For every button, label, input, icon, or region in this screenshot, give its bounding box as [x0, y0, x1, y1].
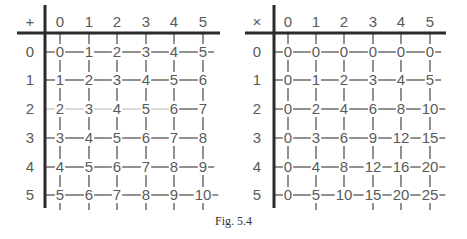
table-cell: 2 — [56, 100, 64, 117]
row-header: 3 — [253, 129, 261, 146]
table-cell: 8 — [397, 100, 405, 117]
table-cell: 0 — [284, 186, 292, 203]
row-header: 4 — [26, 158, 34, 175]
table-cell: 5 — [56, 186, 64, 203]
column-header: 0 — [56, 13, 64, 30]
table-cell: 0 — [284, 71, 292, 88]
table-cell: 4 — [340, 100, 348, 117]
table-cell: 6 — [85, 186, 93, 203]
table-cell: 8 — [170, 158, 178, 175]
table-cell: 1 — [56, 71, 64, 88]
column-header: 1 — [85, 13, 93, 30]
table-cell: 6 — [369, 100, 377, 117]
table-cell: 4 — [397, 71, 405, 88]
column-header: 4 — [397, 13, 405, 30]
row-header: 4 — [253, 158, 261, 175]
table-cell: 8 — [340, 158, 348, 175]
multiplication-table: ×012345012345000000012345024681003691215… — [245, 5, 446, 210]
table-cell: 4 — [142, 71, 150, 88]
table-cell: 0 — [284, 43, 292, 60]
column-header: 1 — [312, 13, 320, 30]
table-cell: 5 — [312, 186, 320, 203]
table-cell: 8 — [142, 186, 150, 203]
operation-tables-figure: +012345012345012345123456234567345678456… — [0, 0, 467, 239]
row-header: 0 — [253, 43, 261, 60]
column-header: 2 — [340, 13, 348, 30]
table-cell: 0 — [426, 43, 434, 60]
table-cell: 2 — [340, 71, 348, 88]
table-cell: 4 — [85, 129, 93, 146]
table-cell: 0 — [340, 43, 348, 60]
table-cell: 1 — [312, 71, 320, 88]
table-cell: 9 — [369, 129, 377, 146]
table-cell: 6 — [142, 129, 150, 146]
table-cell: 5 — [113, 129, 121, 146]
table-cell: 0 — [397, 43, 405, 60]
row-header: 2 — [26, 100, 34, 117]
column-header: 5 — [199, 13, 207, 30]
table-cell: 6 — [170, 100, 178, 117]
table-cell: 6 — [340, 129, 348, 146]
row-header: 5 — [253, 186, 261, 203]
table-cell: 4 — [170, 43, 178, 60]
table-cell: 25 — [422, 186, 439, 203]
column-header: 0 — [284, 13, 292, 30]
column-header: 3 — [369, 13, 377, 30]
table-cell: 0 — [369, 43, 377, 60]
table-cell: 3 — [56, 129, 64, 146]
table-cell: 0 — [284, 158, 292, 175]
operator-symbol: × — [253, 13, 262, 30]
table-cell: 5 — [170, 71, 178, 88]
table-cell: 15 — [365, 186, 382, 203]
table-cell: 8 — [199, 129, 207, 146]
row-header: 2 — [253, 100, 261, 117]
table-cell: 12 — [365, 158, 382, 175]
operator-symbol: + — [26, 13, 35, 30]
table-cell: 1 — [85, 43, 93, 60]
row-header: 1 — [26, 71, 34, 88]
table-cell: 10 — [422, 100, 439, 117]
table-cell: 3 — [85, 100, 93, 117]
column-header: 4 — [170, 13, 178, 30]
table-cell: 2 — [113, 43, 121, 60]
table-cell: 20 — [393, 186, 410, 203]
table-cell: 0 — [56, 43, 64, 60]
table-cell: 5 — [199, 43, 207, 60]
table-cell: 9 — [170, 186, 178, 203]
row-header: 1 — [253, 71, 261, 88]
row-header: 3 — [26, 129, 34, 146]
column-header: 2 — [113, 13, 121, 30]
table-cell: 12 — [393, 129, 410, 146]
table-cell: 5 — [142, 100, 150, 117]
table-cell: 3 — [369, 71, 377, 88]
table-cell: 10 — [195, 186, 212, 203]
table-cell: 4 — [113, 100, 121, 117]
table-cell: 9 — [199, 158, 207, 175]
table-cell: 4 — [312, 158, 320, 175]
table-cell: 0 — [312, 43, 320, 60]
column-header: 5 — [426, 13, 434, 30]
addition-table: +012345012345012345123456234567345678456… — [17, 5, 220, 210]
table-cell: 0 — [284, 129, 292, 146]
column-header: 3 — [142, 13, 150, 30]
table-cell: 3 — [312, 129, 320, 146]
table-cell: 5 — [426, 71, 434, 88]
table-cell: 3 — [113, 71, 121, 88]
table-cell: 10 — [336, 186, 353, 203]
table-cell: 5 — [85, 158, 93, 175]
table-cell: 6 — [113, 158, 121, 175]
table-cell: 7 — [113, 186, 121, 203]
figure-caption: Fig. 5.4 — [0, 214, 467, 229]
table-cell: 2 — [85, 71, 93, 88]
table-cell: 16 — [393, 158, 410, 175]
row-header: 0 — [26, 43, 34, 60]
table-cell: 20 — [422, 158, 439, 175]
table-cell: 6 — [199, 71, 207, 88]
row-header: 5 — [26, 186, 34, 203]
table-cell: 0 — [284, 100, 292, 117]
table-cell: 7 — [170, 129, 178, 146]
table-cell: 4 — [56, 158, 64, 175]
table-cell: 7 — [142, 158, 150, 175]
table-cell: 3 — [142, 43, 150, 60]
table-cell: 7 — [199, 100, 207, 117]
